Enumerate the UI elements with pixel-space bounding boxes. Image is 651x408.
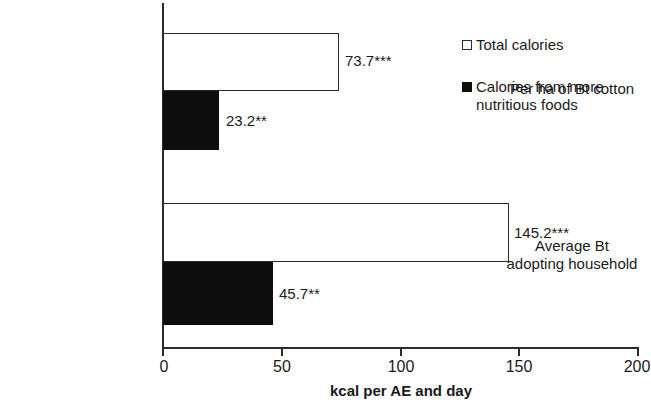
category-label-household: Average Bt adopting household [493,237,651,273]
legend-swatch-filled-square-icon [462,82,472,92]
legend: Total calories Calories from more nutrit… [462,36,647,138]
bar-nutritious-calories-per-ha [163,91,219,150]
x-axis-tick-200 [637,349,639,356]
x-axis-title: kcal per AE and day [163,382,639,399]
data-label-nutritious-household: 45.7** [279,285,320,303]
x-axis-tick-label-200: 200 [624,357,651,376]
bar-total-calories-household [163,203,509,262]
x-axis-tick-0 [162,349,164,356]
category-label-household-line1: Average Bt [493,237,651,255]
bar-total-calories-per-ha [163,33,339,91]
x-axis-tick-label-0: 0 [160,357,169,376]
legend-label-total-calories-line1: Total calories [476,36,564,54]
x-axis-tick-100 [400,349,402,356]
category-label-household-line2: adopting household [493,255,651,273]
bar-chart: 0 50 100 150 200 73.7*** 23.2** 145.2***… [0,0,651,408]
x-axis-tick-label-50: 50 [273,357,291,376]
x-axis-tick-50 [281,349,283,356]
legend-item-nutritious-calories: Calories from more nutritious foods [462,78,647,114]
data-label-total-per-ha: 73.7*** [345,52,392,70]
legend-label-nutritious-calories-line1: Calories from more [476,78,604,96]
legend-label-total-calories: Total calories [476,36,564,54]
legend-item-total-calories: Total calories [462,36,647,54]
bar-nutritious-calories-household [163,262,273,325]
x-axis-tick-150 [518,349,520,356]
x-axis-tick-label-150: 150 [506,357,533,376]
legend-swatch-open-square-icon [462,40,472,50]
legend-label-nutritious-calories: Calories from more nutritious foods [476,78,604,114]
x-axis-tick-label-100: 100 [388,357,415,376]
data-label-nutritious-per-ha: 23.2** [226,112,267,130]
legend-label-nutritious-calories-line2: nutritious foods [476,96,604,114]
